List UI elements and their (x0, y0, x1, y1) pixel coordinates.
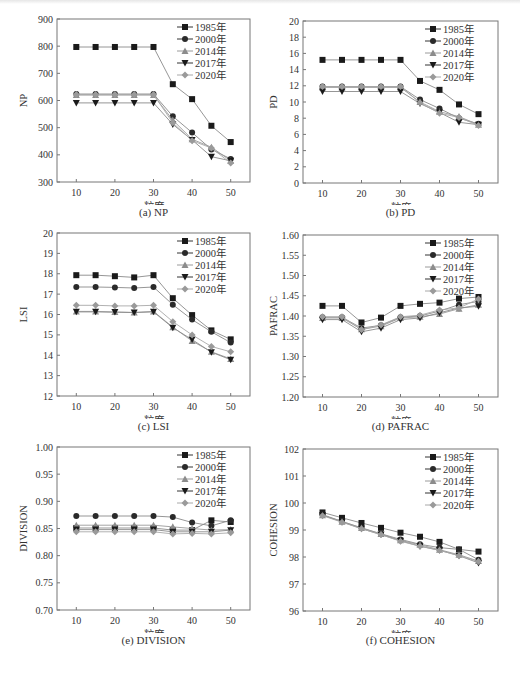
data-point-marker (476, 111, 482, 117)
legend-item: 2014年 (425, 261, 474, 273)
y-tick-label: 16 (289, 48, 299, 59)
y-axis-label: NP (18, 94, 29, 108)
series-2017年 (319, 88, 482, 128)
y-tick-label: 1.40 (282, 311, 300, 322)
y-tick-label: 20 (43, 228, 53, 239)
legend-item: 2017年 (177, 57, 226, 69)
legend-item: 2020年 (177, 497, 226, 509)
y-axis: 0.700.750.800.850.900.951.00 (36, 442, 61, 616)
data-point-marker (228, 139, 234, 145)
data-point-marker (398, 530, 404, 536)
data-point-marker (93, 44, 99, 50)
data-point-marker (169, 325, 176, 332)
y-tick-label: 102 (284, 444, 299, 455)
data-point-marker (339, 303, 345, 309)
chart-division-svg: 0.700.750.800.850.900.951.00DIVISION1020… (0, 428, 260, 633)
data-point-marker (430, 252, 436, 258)
x-tick-label: 10 (318, 402, 328, 413)
legend-item: 2020年 (177, 69, 226, 81)
y-tick-label: 13 (43, 370, 53, 381)
x-axis-label: 粒度 (391, 201, 412, 205)
legend-label: 2017年 (443, 487, 474, 499)
x-tick-label: 50 (474, 188, 484, 199)
data-point-marker (339, 57, 345, 63)
data-point-marker (73, 302, 80, 309)
data-point-marker (151, 284, 157, 290)
y-tick-label: 14 (43, 350, 53, 361)
data-point-marker (182, 286, 189, 293)
x-tick-label: 20 (357, 188, 367, 199)
data-point-marker (73, 284, 79, 290)
legend-item: 2000年 (177, 247, 226, 259)
caption-cohesion: (f) COHESION (303, 634, 498, 646)
data-point-marker (112, 44, 118, 50)
series-2020年 (319, 512, 482, 565)
legend-item: 2020年 (425, 499, 474, 511)
legend-label: 2020年 (195, 69, 226, 81)
chart-np: 300400500600700800900NP1020304050粒度1985年… (0, 0, 260, 222)
y-tick-label: 20 (289, 16, 299, 27)
legend-label: 1985年 (195, 235, 226, 247)
data-point-marker (430, 38, 436, 44)
y-tick-label: 6 (294, 129, 299, 140)
legend-label: 2020年 (195, 283, 226, 295)
x-tick-label: 40 (187, 401, 197, 412)
chart-cohesion: 96979899100101102COHESION1020304050粒度198… (260, 428, 520, 650)
y-tick-label: 400 (38, 149, 53, 160)
legend-label: 2017年 (443, 59, 474, 71)
legend-label: 1985年 (195, 21, 226, 33)
data-point-marker (228, 517, 234, 523)
y-tick-label: 18 (43, 268, 53, 279)
chart-pd: 02468101214161820PD1020304050粒度1985年2000… (260, 0, 520, 222)
legend-item: 2017年 (177, 485, 226, 497)
x-axis-label: 粒度 (391, 629, 412, 633)
data-point-marker (398, 303, 404, 309)
y-tick-label: 1.35 (282, 331, 300, 342)
x-tick-label: 10 (318, 188, 328, 199)
legend-item: 2000年 (177, 33, 226, 45)
chart-np-svg: 300400500600700800900NP1020304050粒度1985年… (0, 0, 260, 205)
legend-label: 2020年 (443, 499, 474, 511)
data-point-marker (417, 301, 423, 307)
y-tick-label: 500 (38, 122, 53, 133)
data-point-marker (227, 348, 234, 355)
y-tick-label: 1.30 (282, 351, 300, 362)
data-point-marker (93, 513, 99, 519)
data-point-marker (131, 274, 137, 280)
x-tick-label: 10 (318, 616, 328, 627)
legend-item: 2020年 (177, 283, 226, 295)
y-tick-label: 800 (38, 41, 53, 52)
legend-label: 2000年 (195, 33, 226, 45)
legend-label: 2020年 (443, 285, 474, 297)
data-point-marker (170, 302, 176, 308)
x-tick-label: 40 (435, 402, 445, 413)
data-point-marker (170, 295, 176, 301)
data-point-marker (73, 44, 79, 50)
x-tick-label: 10 (71, 615, 81, 626)
x-tick-label: 30 (396, 402, 406, 413)
x-tick-label: 20 (110, 401, 120, 412)
x-tick-label: 40 (187, 187, 197, 198)
legend-label: 2020年 (443, 71, 474, 83)
legend-item: 2017年 (425, 273, 474, 285)
data-point-marker (112, 273, 118, 279)
data-point-marker (430, 466, 436, 472)
data-point-marker (437, 539, 443, 545)
legend-item: 1985年 (425, 451, 474, 463)
legend-item: 2014年 (177, 45, 226, 57)
data-point-marker (111, 302, 118, 309)
y-axis: 1.201.251.301.351.401.451.501.551.60 (282, 230, 307, 403)
data-point-marker (170, 81, 176, 87)
legend-item: 2014年 (177, 259, 226, 271)
y-tick-label: 15 (43, 329, 53, 340)
data-point-marker (476, 549, 482, 555)
data-point-marker (437, 300, 443, 306)
chart-cohesion-svg: 96979899100101102COHESION1020304050粒度198… (260, 428, 520, 633)
y-tick-label: 900 (38, 14, 53, 25)
legend: 1985年2000年2014年2017年2020年 (425, 237, 474, 297)
legend-label: 2017年 (195, 485, 226, 497)
y-tick-label: 99 (289, 525, 299, 536)
data-point-marker (320, 303, 326, 309)
chart-pafrac: 1.201.251.301.351.401.451.501.551.60PAFR… (260, 214, 520, 436)
data-point-marker (417, 534, 423, 540)
